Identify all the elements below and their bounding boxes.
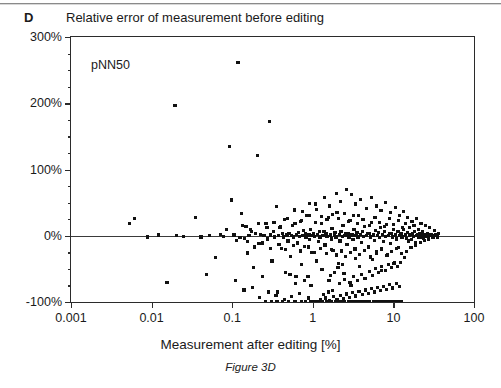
data-point [319, 298, 322, 301]
data-point [309, 228, 312, 231]
data-point [286, 217, 289, 220]
data-point [272, 221, 275, 224]
x-axis-title: Measurement after editing [%] [0, 337, 501, 352]
data-point [372, 233, 375, 236]
scatter-plot-area: pNN50 300%200%100%0%-100%0.0010.010.1110… [70, 36, 475, 303]
data-point [199, 235, 202, 238]
data-point [225, 228, 228, 231]
data-point [392, 223, 395, 226]
y-axis-tick [65, 103, 71, 104]
data-point [205, 273, 208, 276]
data-point [258, 296, 261, 299]
data-point [398, 285, 401, 288]
y-axis-tick [65, 37, 71, 38]
data-point [194, 216, 197, 219]
data-point [409, 246, 412, 249]
y-axis-minor-tick [68, 269, 72, 270]
data-point [335, 298, 338, 301]
x-axis-tick-label: 0.001 [55, 311, 86, 325]
data-point [414, 243, 417, 246]
data-point [357, 214, 360, 217]
data-point [410, 220, 413, 223]
data-point [374, 267, 377, 270]
data-point [349, 284, 352, 287]
data-point [328, 204, 331, 207]
data-point [323, 196, 326, 199]
data-point [396, 265, 399, 268]
data-point [269, 233, 272, 236]
data-point [322, 293, 325, 296]
data-point [274, 294, 277, 297]
data-point [128, 222, 131, 225]
data-point [279, 225, 282, 228]
data-point [431, 236, 434, 239]
data-point [363, 225, 366, 228]
data-point [342, 297, 345, 300]
x-axis-tick [474, 302, 475, 308]
x-axis-tick [71, 302, 72, 308]
x-axis-tick [152, 302, 153, 308]
data-point [275, 300, 278, 302]
y-axis-tick [65, 236, 71, 237]
y-axis-tick-label: 0% [44, 229, 62, 243]
data-point [293, 222, 296, 225]
data-point [410, 238, 413, 241]
data-point [317, 240, 320, 243]
data-point [289, 255, 292, 258]
x-axis-tick-label: 0.1 [223, 311, 240, 325]
y-axis-minor-tick [68, 54, 72, 55]
data-point [284, 271, 287, 274]
data-point [408, 226, 411, 229]
data-point [384, 201, 387, 204]
data-point [264, 222, 267, 225]
data-point [327, 290, 330, 293]
chart-title: Relative error of measurement before edi… [66, 10, 324, 25]
data-point [320, 268, 323, 271]
data-point [323, 243, 326, 246]
data-point [296, 241, 299, 244]
data-point [373, 290, 376, 293]
data-point [375, 204, 378, 207]
data-point [314, 202, 317, 205]
data-point [379, 226, 382, 229]
data-point [390, 266, 393, 269]
data-point [284, 248, 287, 251]
data-point [353, 247, 356, 250]
data-point [222, 235, 225, 238]
data-point [298, 292, 301, 295]
data-point [287, 300, 290, 302]
data-point [275, 205, 278, 208]
data-point [391, 286, 394, 289]
data-point [315, 259, 318, 262]
data-point [272, 230, 275, 233]
data-point [242, 288, 245, 291]
data-point [283, 298, 286, 301]
data-point [335, 192, 338, 195]
data-point [320, 215, 323, 218]
data-point [436, 235, 439, 238]
data-point [173, 104, 176, 107]
data-point [338, 282, 341, 285]
data-point [290, 295, 293, 298]
figure-page: D Relative error of measurement before e… [0, 0, 501, 388]
data-point [399, 261, 402, 264]
data-point [303, 245, 306, 248]
plot-inner: pNN50 [71, 37, 474, 302]
data-point [300, 263, 303, 266]
data-point [257, 242, 260, 245]
data-point [270, 259, 273, 262]
data-point [385, 288, 388, 291]
data-point [238, 236, 241, 239]
data-point [354, 257, 357, 260]
data-point [320, 222, 323, 225]
panel-label: D [24, 10, 33, 25]
data-point [352, 275, 355, 278]
data-point [280, 247, 283, 250]
data-point [402, 210, 405, 213]
data-point [208, 234, 211, 237]
x-axis-tick-label: 1 [309, 311, 316, 325]
data-point [247, 234, 250, 237]
data-point [365, 207, 368, 210]
page-top-rule-shadow [0, 4, 501, 5]
data-point [308, 214, 311, 217]
